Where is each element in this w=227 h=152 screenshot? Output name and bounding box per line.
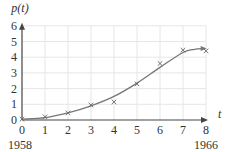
y-axis-label: p(t)	[10, 1, 28, 15]
year-annotation: 1958	[8, 138, 32, 152]
y-tick-label: 3	[11, 66, 17, 80]
y-tick-label: 0	[11, 113, 17, 127]
x-axis-label: t	[218, 107, 222, 121]
fitted-curve-line	[22, 49, 204, 120]
x-tick-label: 2	[65, 123, 71, 137]
y-tick-label: 2	[11, 82, 17, 96]
year-annotation: 1966	[194, 138, 218, 152]
y-tick-label: 1	[11, 97, 17, 111]
y-tick-label: 5	[11, 35, 17, 49]
x-tick-label: 1	[42, 123, 48, 137]
gridlines	[22, 26, 206, 120]
y-tick-label: 4	[11, 50, 17, 64]
x-tick-label: 8	[203, 123, 209, 137]
x-tick-label: 0	[19, 123, 25, 137]
y-tick-label: 6	[11, 19, 17, 33]
x-tick-label: 4	[111, 123, 117, 137]
x-tick-label: 6	[157, 123, 163, 137]
chart: 012345678012345619581966tp(t)	[0, 0, 227, 152]
x-tick-label: 7	[180, 123, 186, 137]
x-tick-label: 5	[134, 123, 140, 137]
x-tick-label: 3	[88, 123, 94, 137]
axis-labels: 012345678012345619581966tp(t)	[8, 1, 222, 152]
